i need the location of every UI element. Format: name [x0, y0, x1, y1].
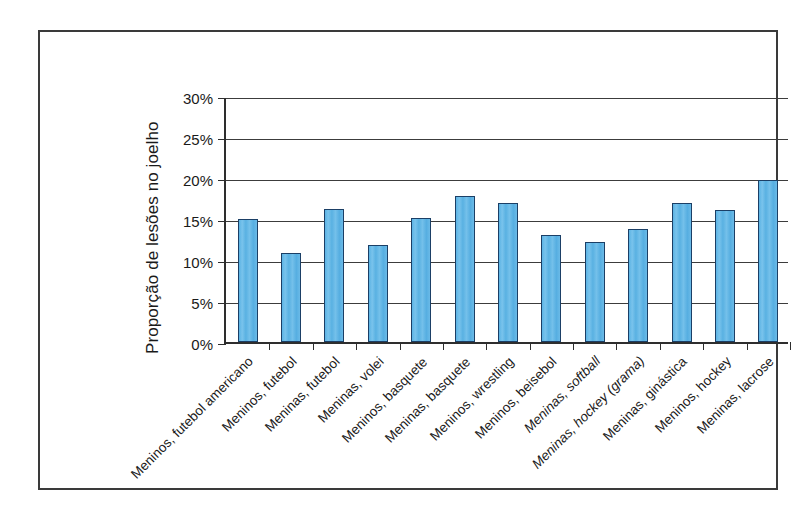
bar-slot — [356, 98, 399, 342]
x-tick-label: Meninas, lacrose — [694, 354, 777, 437]
bar[interactable] — [628, 229, 648, 342]
bar-slot — [573, 98, 616, 342]
x-tick-label: Meninos, hockey — [652, 354, 734, 436]
figure-frame: Proporção de lesões no joelho 0%5%10%15%… — [38, 30, 778, 490]
bars-layer — [226, 98, 788, 342]
bar[interactable] — [715, 210, 735, 342]
bar[interactable] — [238, 219, 258, 342]
y-tick-mark — [218, 221, 226, 222]
x-tick-mark — [790, 342, 791, 350]
bar-slot — [400, 98, 443, 342]
y-tick-label: 5% — [191, 295, 213, 312]
bar-slot — [226, 98, 269, 342]
bar[interactable] — [758, 180, 778, 342]
bar[interactable] — [324, 209, 344, 342]
x-axis-labels: Meninos, futebol americanoMeninos, futeb… — [224, 344, 788, 514]
y-tick-mark — [218, 303, 226, 304]
bar[interactable] — [541, 235, 561, 342]
bar-slot — [486, 98, 529, 342]
y-tick-label: 15% — [183, 213, 213, 230]
y-tick-mark — [218, 180, 226, 181]
bar-slot — [313, 98, 356, 342]
bar-slot — [616, 98, 659, 342]
bar-slot — [530, 98, 573, 342]
bar-slot — [443, 98, 486, 342]
bar-slot — [747, 98, 790, 342]
bar[interactable] — [411, 218, 431, 342]
y-tick-mark — [218, 262, 226, 263]
bar-slot — [269, 98, 312, 342]
y-tick-mark — [218, 98, 226, 99]
bar-slot — [660, 98, 703, 342]
y-tick-label: 30% — [183, 90, 213, 107]
bar[interactable] — [455, 196, 475, 342]
bar-slot — [703, 98, 746, 342]
x-tick-label: Meninas, futebol — [262, 354, 343, 435]
bar[interactable] — [672, 203, 692, 342]
bar[interactable] — [585, 242, 605, 342]
y-tick-label: 20% — [183, 172, 213, 189]
y-tick-label: 0% — [191, 336, 213, 353]
y-axis-title: Proporção de lesões no joelho — [143, 54, 169, 354]
y-tick-mark — [218, 139, 226, 140]
bar[interactable] — [281, 253, 301, 342]
plot-area: 0%5%10%15%20%25%30% — [224, 98, 788, 344]
y-tick-label: 25% — [183, 131, 213, 148]
bar[interactable] — [368, 245, 388, 342]
x-tick-label: Meninas, softball — [521, 354, 603, 436]
y-tick-label: 10% — [183, 254, 213, 271]
bar[interactable] — [498, 203, 518, 342]
